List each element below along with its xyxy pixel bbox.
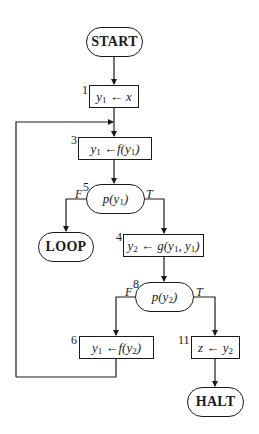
connector-lines: [0, 0, 259, 434]
assignment-node-3: y1 ←f(y1): [78, 137, 152, 160]
branch-label-true: T: [196, 286, 203, 298]
node-number-6: 6: [71, 334, 77, 346]
assignment-node-6: y1 ←f(y2): [79, 336, 154, 359]
loop-terminal: LOOP: [38, 232, 94, 262]
node-number-1: 1: [82, 84, 88, 96]
node-number-3: 3: [71, 134, 77, 146]
start-label: START: [91, 34, 138, 50]
node-1-text: y1 ← x: [96, 89, 132, 105]
node-number-4: 4: [116, 231, 122, 243]
start-terminal: START: [86, 27, 143, 57]
test-node-5: p(y1): [86, 184, 145, 214]
node-8-text: p(y2): [152, 289, 177, 305]
node-4-text: y2 ← g(y1, y1): [127, 238, 199, 254]
assignment-node-1: y1 ← x: [89, 85, 139, 108]
node-5-text: p(y1): [103, 191, 128, 207]
node-6-text: y1 ←f(y2): [92, 340, 141, 356]
test-node-8: p(y2): [135, 282, 194, 312]
node-11-text: z ← y2: [198, 340, 233, 356]
branch-label-false: F: [75, 188, 82, 200]
branch-label-false: F: [125, 286, 132, 298]
branch-label-true: T: [146, 188, 153, 200]
assignment-node-4: y2 ← g(y1, y1): [123, 234, 204, 257]
halt-terminal: HALT: [187, 387, 244, 417]
halt-label: HALT: [196, 394, 236, 410]
node-number-11: 11: [178, 334, 190, 346]
assignment-node-11: z ← y2: [191, 336, 240, 359]
node-3-text: y1 ←f(y1): [90, 141, 139, 157]
loop-label: LOOP: [46, 239, 87, 255]
